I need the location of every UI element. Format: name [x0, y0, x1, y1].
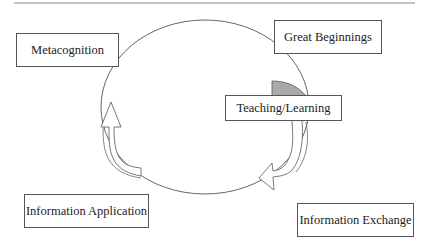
node-teaching-learning: Teaching/Learning: [225, 95, 342, 121]
node-label: Metacognition: [31, 43, 104, 58]
node-label: Information Application: [26, 204, 147, 219]
curved-arrow-left-icon: [101, 102, 141, 176]
node-information-application: Information Application: [24, 194, 149, 228]
curved-arrow-right-icon: [259, 121, 303, 190]
highlight-wedge: [272, 81, 306, 96]
node-metacognition: Metacognition: [16, 33, 119, 67]
node-label: Information Exchange: [299, 213, 411, 228]
node-great-beginnings: Great Beginnings: [274, 20, 382, 54]
node-information-exchange: Information Exchange: [297, 203, 414, 237]
node-label: Great Beginnings: [284, 30, 372, 45]
node-label: Teaching/Learning: [236, 101, 330, 116]
